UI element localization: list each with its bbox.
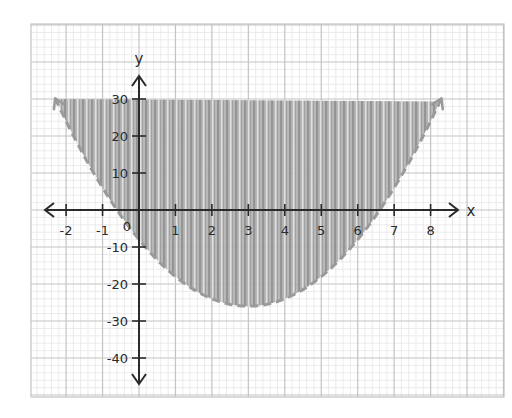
y-tick-label: -30 (107, 314, 128, 329)
x-tick-label: 2 (208, 223, 216, 238)
x-tick-label: 6 (354, 223, 362, 238)
y-tick-label: -40 (107, 351, 128, 366)
inequality-graph: -2-112345678 302010-10-20-30-40 0 x y (0, 0, 512, 418)
x-tick-label: -2 (60, 223, 73, 238)
origin-label: 0 (123, 219, 131, 234)
y-axis-label: y (135, 50, 144, 68)
y-tick-label: 30 (111, 92, 128, 107)
x-tick-label: 3 (244, 223, 252, 238)
y-tick-label: -20 (107, 277, 128, 292)
x-tick-label: 8 (426, 223, 434, 238)
y-tick-label: 10 (111, 166, 128, 181)
x-tick-label: 7 (390, 223, 398, 238)
x-tick-label: 1 (171, 223, 179, 238)
y-tick-label: 20 (111, 129, 128, 144)
x-tick-label: 4 (281, 223, 289, 238)
x-axis-label: x (467, 202, 476, 220)
x-tick-label: -1 (96, 223, 109, 238)
x-tick-label: 5 (317, 223, 325, 238)
y-tick-label: -10 (107, 240, 128, 255)
